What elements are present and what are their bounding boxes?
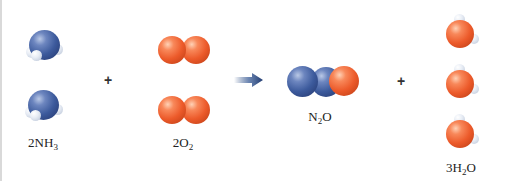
h2o-label: 3H2O	[446, 160, 476, 176]
hydrogen-atom	[30, 110, 41, 121]
h2o-label-text: 3H	[446, 160, 462, 175]
plus-sign-left: +	[104, 72, 112, 88]
oxygen-atom	[182, 36, 210, 64]
oxygen-atom	[329, 66, 359, 96]
o2-label: 2O2	[173, 135, 193, 151]
o2-label-text: 2O	[173, 135, 189, 150]
oxygen-atom	[446, 20, 474, 48]
h2o-label-post: O	[467, 160, 476, 175]
hydrogen-atom	[31, 50, 42, 61]
nitrogen-atom	[287, 66, 318, 97]
o2-label-subscript: 2	[189, 142, 194, 152]
oxygen-atom	[158, 36, 186, 64]
oxygen-atom	[446, 120, 474, 148]
n2o-label-text: N	[308, 109, 317, 124]
nh3-label: 2NH3	[28, 135, 58, 151]
nh3-label-subscript: 3	[53, 142, 58, 152]
oxygen-atom	[182, 96, 210, 124]
n2o-label: N2O	[308, 109, 331, 125]
left-border	[0, 0, 2, 181]
oxygen-atom	[446, 70, 474, 98]
oxygen-atom	[158, 96, 186, 124]
reaction-arrow-icon	[234, 73, 264, 87]
plus-sign-right: +	[397, 73, 405, 89]
nh3-label-text: 2NH	[28, 135, 53, 150]
n2o-label-post: O	[322, 109, 331, 124]
